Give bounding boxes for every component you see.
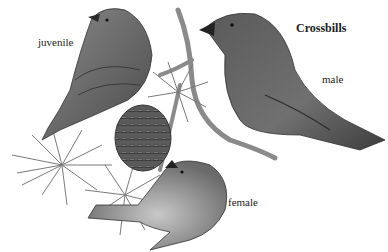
figure-title: Crossbills [296,22,346,34]
label-female: female [228,197,258,208]
label-juvenile: juvenile [38,37,73,48]
male-bird [199,13,385,150]
label-male: male [322,74,343,85]
female-bird [88,160,227,250]
illustration-canvas: juvenile Crossbills male female [0,0,388,252]
pine-cone [115,105,171,171]
